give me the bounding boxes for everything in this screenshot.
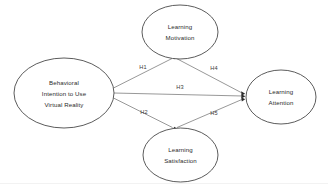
edge-label-h1: H1	[139, 64, 146, 70]
node-learning-satisfaction[interactable]: Learning Satisfaction	[143, 128, 218, 182]
edge-label-group: H1 H4 H3 H2 H5	[139, 64, 217, 117]
node-label-behavioral-intention-line3: Virtual Reality	[45, 101, 85, 108]
node-behavioral-intention[interactable]: Behavioral Intention to Use Virtual Real…	[14, 58, 114, 128]
node-label-learning-motivation-line2: Motivation	[166, 34, 195, 41]
scan-artifact-line	[0, 183, 328, 184]
node-label-behavioral-intention-line1: Behavioral	[49, 79, 79, 86]
edge-label-h3: H3	[176, 84, 183, 90]
edge-label-h4: H4	[210, 65, 217, 71]
edge-group	[114, 59, 244, 128]
edge-h3	[114, 93, 244, 96]
ellipse-learning-satisfaction[interactable]	[143, 128, 218, 182]
edge-label-h5: H5	[210, 110, 217, 116]
arrowhead-h5-to-learning-attention	[241, 97, 245, 101]
diagram-canvas: Behavioral Intention to Use Virtual Real…	[0, 0, 328, 186]
arrowhead-group	[171, 55, 246, 130]
path-model-diagram: Behavioral Intention to Use Virtual Real…	[0, 0, 328, 186]
node-label-learning-satisfaction-line1: Learning	[168, 146, 193, 153]
node-label-learning-motivation-line1: Learning	[168, 23, 193, 30]
ellipse-learning-attention[interactable]	[246, 70, 316, 124]
edge-label-h2: H2	[140, 109, 147, 115]
node-learning-attention[interactable]: Learning Attention	[246, 70, 316, 124]
node-learning-motivation[interactable]: Learning Motivation	[142, 5, 218, 59]
node-label-learning-attention-line2: Attention	[269, 99, 294, 106]
edge-h4	[177, 59, 244, 94]
node-label-learning-satisfaction-line2: Satisfaction	[164, 157, 197, 164]
ellipse-learning-motivation[interactable]	[142, 5, 218, 59]
node-label-behavioral-intention-line2: Intention to Use	[42, 90, 87, 97]
node-label-learning-attention-line1: Learning	[269, 88, 294, 95]
